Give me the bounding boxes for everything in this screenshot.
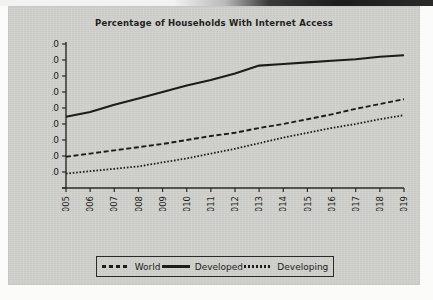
chart-legend: World Developed Developing: [96, 256, 334, 277]
legend-label-developing: Developing: [277, 262, 328, 272]
legend-item-developing[interactable]: Developing: [244, 262, 328, 272]
x-axis-tick-label: 2017: [351, 196, 361, 211]
line-chart-svg: 10.020.030.040.050.060.070.080.090.0 200…: [52, 36, 408, 211]
y-axis-tick-label: 90.0: [52, 39, 59, 49]
x-axis-tick-label: 2012: [230, 196, 240, 211]
chart-title: Percentage of Households With Internet A…: [8, 18, 420, 28]
y-axis-tick-label: 20.0: [52, 151, 59, 161]
y-axis: 10.020.030.040.050.060.070.080.090.0: [52, 39, 66, 188]
x-axis-tick-label: 2019: [399, 196, 408, 211]
x-axis-tick-label: 2008: [134, 196, 144, 211]
data-series-group: [66, 55, 404, 173]
x-axis-tick-label: 2007: [109, 196, 119, 211]
y-axis-tick-label: 60.0: [52, 87, 59, 97]
solid-line-swatch-icon: [162, 265, 190, 267]
x-axis-tick-label: 2010: [182, 196, 192, 211]
dotted-line-swatch-icon: [244, 265, 272, 267]
x-axis-tick-label: 2009: [158, 196, 168, 211]
dashed-line-swatch-icon: [102, 265, 130, 267]
y-axis-tick-label: 10.0: [52, 167, 59, 177]
legend-item-world[interactable]: World: [102, 262, 161, 272]
x-axis-tick-label: 2005: [61, 196, 71, 211]
series-line-developed: [66, 55, 404, 117]
x-axis-tick-label: 2018: [375, 196, 385, 211]
y-axis-tick-label: 70.0: [52, 71, 59, 81]
plot-area: 10.020.030.040.050.060.070.080.090.0 200…: [52, 36, 408, 211]
y-axis-tick-label: 80.0: [52, 55, 59, 65]
legend-item-developed[interactable]: Developed: [162, 262, 243, 272]
x-axis: 2005200620072008200920102011201220132014…: [61, 188, 408, 211]
x-axis-tick-label: 2015: [303, 196, 313, 211]
y-axis-tick-label: 30.0: [52, 135, 59, 145]
x-axis-tick-label: 2006: [85, 196, 95, 211]
y-axis-tick-label: 40.0: [52, 119, 59, 129]
x-axis-tick-label: 2011: [206, 196, 216, 211]
x-axis-tick-label: 2013: [254, 196, 264, 211]
x-axis-tick-label: 2016: [327, 196, 337, 211]
series-line-developing: [66, 115, 404, 173]
legend-label-world: World: [135, 262, 161, 272]
y-axis-tick-label: 50.0: [52, 103, 59, 113]
chart-page: Percentage of Households With Internet A…: [8, 6, 420, 285]
legend-label-developed: Developed: [195, 262, 243, 272]
x-axis-tick-label: 2014: [278, 196, 288, 211]
